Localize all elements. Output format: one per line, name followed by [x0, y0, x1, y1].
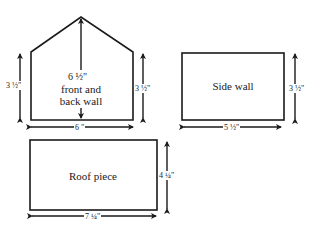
roof-height-label: 4 ¼" [158, 171, 175, 180]
pattern-diagram [0, 0, 320, 235]
front-wall-peak-height-label: 6 ½" [68, 71, 87, 83]
side-wall-width-label: 5 ½" [223, 123, 240, 132]
front-wall-left-height-label: 3 ½" [6, 81, 21, 90]
roof-width-label: 7 ¼" [84, 212, 101, 221]
side-wall-title: Side wall [200, 80, 266, 92]
front-wall-right-height-label: 3 ½" [135, 84, 150, 93]
front-wall-width-label: 6 " [74, 123, 85, 132]
side-wall-height-label: 3 ½" [288, 84, 305, 93]
front-wall-title-line2: back wall [51, 95, 111, 107]
roof-piece-title: Roof piece [60, 170, 126, 182]
front-wall-title-line1: front and [51, 83, 111, 95]
